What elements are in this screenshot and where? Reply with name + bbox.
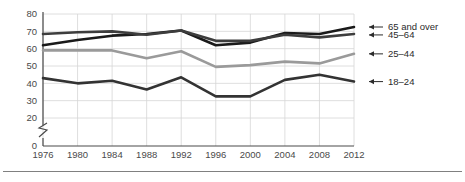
legend-label-25-44: 25–44 [388,48,414,59]
y-tick-label: 30 [26,95,37,106]
chart-canvas: 020304050607080 197619801984198819921996… [0,0,465,182]
left-arrow-icon [369,32,374,37]
x-tick-label: 2008 [309,149,330,160]
left-arrow-icon [369,79,374,84]
legend-label-18-24: 18–24 [388,76,414,87]
x-tick-label: 1992 [171,149,192,160]
data-series-group [43,27,354,96]
y-tick-label: 60 [26,43,37,54]
series-line-18-24 [43,75,354,97]
x-tick-label: 1980 [67,149,88,160]
x-tick-label: 2000 [240,149,261,160]
y-tick-label: 80 [26,8,37,19]
line-chart: 020304050607080 197619801984198819921996… [0,0,465,182]
y-tick-label: 70 [26,26,37,37]
x-tick-label: 1976 [32,149,53,160]
chart-legend: 65 and over45–6425–4418–24 [369,21,438,87]
y-tick-label: 50 [26,60,37,71]
left-arrow-icon [369,24,374,29]
x-tick-label: 1996 [205,149,226,160]
x-tick-label: 1984 [102,149,123,160]
x-tick-label: 2004 [274,149,295,160]
x-axis-tick-labels: 1976198019841988199219962000200420082012 [32,149,364,160]
y-tick-label: 20 [26,112,37,123]
legend-label-45-64: 45–64 [388,29,414,40]
x-tick-label: 2012 [343,149,364,160]
y-axis-tick-labels: 020304050607080 [26,8,37,151]
y-tick-label: 40 [26,78,37,89]
x-tick-label: 1988 [136,149,157,160]
series-line-25-44 [43,50,354,66]
left-arrow-icon [369,51,374,56]
